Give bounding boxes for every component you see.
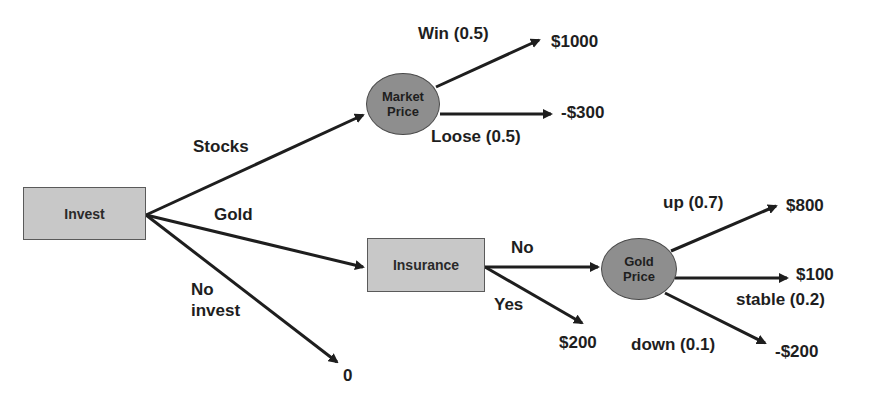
gold-price-label-line2: Price xyxy=(623,269,655,284)
edge-stocks xyxy=(146,115,363,215)
invest-label: Invest xyxy=(64,206,104,222)
outcome-win-value: $1000 xyxy=(551,32,598,52)
gold-price-chance-node: Gold Price xyxy=(601,238,677,300)
market-price-label-line1: Market xyxy=(382,89,424,104)
edge-label-no-invest: No invest xyxy=(191,279,240,321)
insurance-decision-node: Insurance xyxy=(367,238,485,292)
outcome-insurance-yes-value: $200 xyxy=(559,333,597,353)
edge-label-down: down (0.1) xyxy=(631,335,715,355)
outcome-no-invest-value: 0 xyxy=(343,366,352,386)
edge-label-insurance-yes: Yes xyxy=(494,295,523,315)
edge-label-no-invest-line2: invest xyxy=(191,300,240,321)
outcome-down-value: -$200 xyxy=(775,342,818,362)
edge-label-no-invest-line1: No xyxy=(191,279,240,300)
insurance-label: Insurance xyxy=(393,257,459,273)
edge-label-up: up (0.7) xyxy=(663,193,723,213)
outcome-up-value: $800 xyxy=(786,196,824,216)
edge-label-stable: stable (0.2) xyxy=(736,290,825,310)
edge-label-insurance-no: No xyxy=(511,238,534,258)
invest-decision-node: Invest xyxy=(23,187,146,240)
edge-win xyxy=(436,40,539,87)
edge-label-gold: Gold xyxy=(214,205,253,225)
market-price-chance-node: Market Price xyxy=(366,73,440,135)
edge-label-loose: Loose (0.5) xyxy=(431,127,521,147)
outcome-stable-value: $100 xyxy=(796,265,834,285)
market-price-label-line2: Price xyxy=(387,104,419,119)
edge-label-stocks: Stocks xyxy=(193,137,249,157)
edge-label-win: Win (0.5) xyxy=(418,24,489,44)
outcome-loose-value: -$300 xyxy=(561,103,604,123)
gold-price-label-line1: Gold xyxy=(624,254,654,269)
